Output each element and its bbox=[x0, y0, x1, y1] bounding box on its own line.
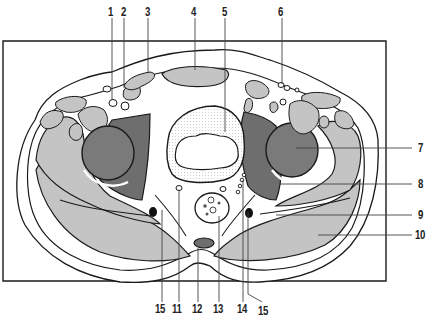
femoral-vessel-right-4 bbox=[280, 99, 286, 105]
femoral-vessel-right-1 bbox=[278, 83, 284, 88]
rectum-content-4 bbox=[218, 202, 221, 205]
label-13: 13 bbox=[213, 303, 223, 315]
iliopsoas-right bbox=[319, 116, 329, 128]
label-2: 2 bbox=[121, 6, 126, 18]
coccyx bbox=[194, 238, 214, 248]
rectum-content-1 bbox=[208, 197, 214, 203]
rectum-content-5 bbox=[206, 213, 209, 216]
label-14: 14 bbox=[237, 303, 247, 315]
label-1: 1 bbox=[108, 6, 113, 18]
femoral-nerve-left bbox=[121, 102, 129, 110]
bladder-lumen bbox=[175, 134, 238, 170]
pubic-muscle-right-2 bbox=[270, 102, 278, 113]
label-9: 9 bbox=[418, 209, 423, 221]
vessel-chain-1 bbox=[242, 173, 246, 177]
vessel-chain-4 bbox=[236, 190, 240, 194]
femoral-vessel-right-2 bbox=[284, 86, 290, 91]
label-4: 4 bbox=[191, 6, 196, 18]
femoral-head-left bbox=[82, 126, 134, 180]
femoral-artery-left bbox=[109, 100, 117, 107]
rectum-content-2 bbox=[203, 204, 207, 208]
label-11: 11 bbox=[172, 303, 181, 315]
sciatic-nerve-right bbox=[245, 208, 253, 218]
label-8: 8 bbox=[418, 178, 423, 190]
femoral-vessel-right-3 bbox=[295, 88, 299, 92]
label-15-left: 15 bbox=[155, 303, 165, 315]
sciatic-nerve-left bbox=[149, 207, 157, 217]
label-7: 7 bbox=[418, 142, 423, 154]
pelvis-cross-section-diagram bbox=[0, 0, 430, 319]
label-15-right: 15 bbox=[258, 305, 268, 317]
label-3: 3 bbox=[145, 6, 150, 18]
iliopsoas-left bbox=[69, 124, 82, 141]
femoral-vein-left bbox=[103, 86, 111, 92]
obturator-vessel-right bbox=[220, 187, 226, 192]
obturator-vessel-left bbox=[176, 186, 182, 191]
label-10: 10 bbox=[415, 229, 425, 241]
vessel-chain-3 bbox=[238, 184, 242, 188]
label-12: 12 bbox=[192, 303, 202, 315]
label-6: 6 bbox=[278, 6, 283, 18]
label-5: 5 bbox=[222, 6, 227, 18]
